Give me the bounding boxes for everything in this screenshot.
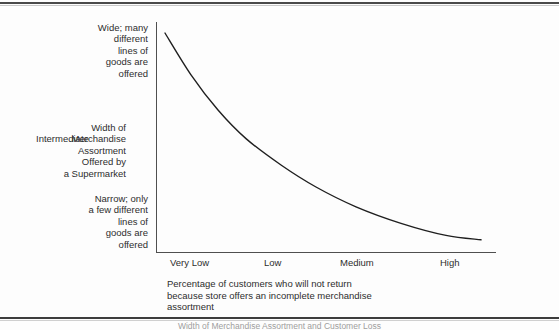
page-rule-bottom — [0, 317, 559, 319]
y-axis-title: Width of Merchandise Assortment Offered … — [2, 122, 126, 179]
y-axis-label-narrow: Narrow; only a few different lines of go… — [28, 193, 148, 250]
plot-area — [156, 22, 496, 253]
x-tick-low: Low — [264, 257, 281, 268]
page-rule-top — [0, 2, 559, 4]
x-tick-very-low: Very Low — [170, 257, 209, 268]
y-axis-label-intermediate: Intermediate — [36, 133, 148, 144]
page-rule-bottom-hairline — [0, 320, 559, 321]
page-rule-top-hairline — [0, 5, 559, 6]
figure-container: Width of Merchandise Assortment Offered … — [0, 0, 559, 330]
y-axis-label-wide: Wide; many different lines of goods are … — [36, 22, 148, 79]
data-curve — [156, 22, 496, 253]
x-tick-high: High — [440, 257, 460, 268]
x-tick-medium: Medium — [340, 257, 374, 268]
page-caption-cutoff: Width of Merchandise Assortment and Cust… — [0, 322, 559, 330]
x-axis-title: Percentage of customers who will not ret… — [167, 278, 497, 313]
